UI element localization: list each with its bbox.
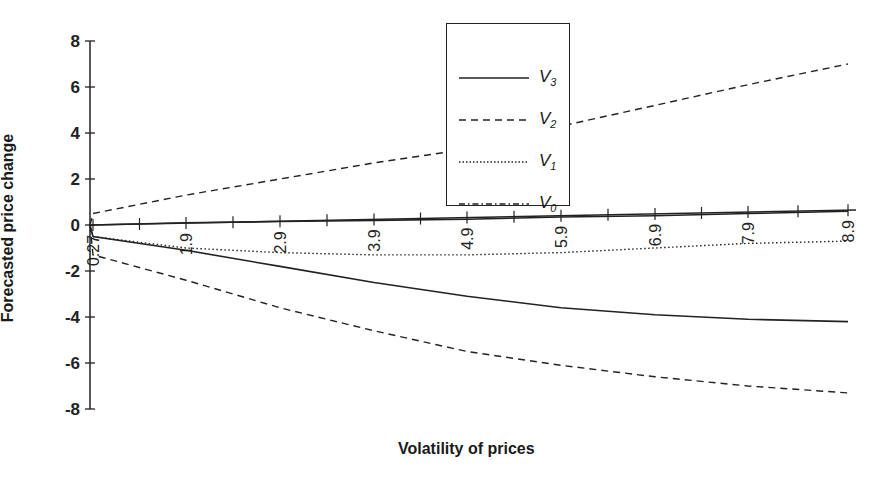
legend-item-v1: V1 xyxy=(459,150,567,174)
y-axis-title-text: Forecasted price change xyxy=(0,134,17,323)
legend-item-v3: V3 xyxy=(459,66,567,90)
legend-label: V3 xyxy=(539,67,556,88)
y-tick-label: 0 xyxy=(71,216,80,235)
legend: V3 V2 V1 V0 xyxy=(446,23,570,206)
x-tick-label: 7.9 xyxy=(740,222,757,244)
legend-label: V2 xyxy=(539,109,556,130)
y-tick-label: 2 xyxy=(71,170,80,189)
x-tick-label: 2.9 xyxy=(272,231,289,253)
y-tick-label: 4 xyxy=(71,124,81,143)
legend-item-v2: V2 xyxy=(459,108,567,132)
x-tick-label: 0.27 xyxy=(85,235,102,266)
x-tick-label: 3.9 xyxy=(366,229,383,251)
y-tick-label: -8 xyxy=(65,400,80,419)
x-tick-label: 8.9 xyxy=(840,220,857,242)
y-tick-label: 8 xyxy=(71,32,80,51)
solid-line-swatch-icon xyxy=(459,75,529,81)
y-tick-label: -4 xyxy=(65,308,81,327)
dashed-line-swatch-icon xyxy=(459,117,529,123)
legend-item-v0: V0 xyxy=(459,192,567,216)
x-tick-label: 6.9 xyxy=(647,224,664,246)
line-chart: 86420-2-4-6-80.271.92.93.94.95.96.97.98.… xyxy=(0,0,881,486)
dotted-line-swatch-icon xyxy=(459,159,529,165)
y-tick-label: -6 xyxy=(65,354,80,373)
x-tick-label: 4.9 xyxy=(459,228,476,250)
dashdot-line-swatch-icon xyxy=(459,201,529,207)
x-axis-title: Volatility of prices xyxy=(398,440,535,458)
legend-label: V1 xyxy=(539,151,556,172)
y-tick-label: -2 xyxy=(65,262,80,281)
y-tick-label: 6 xyxy=(71,78,80,97)
x-tick-label: 5.9 xyxy=(553,226,570,248)
legend-label: V0 xyxy=(539,193,556,214)
